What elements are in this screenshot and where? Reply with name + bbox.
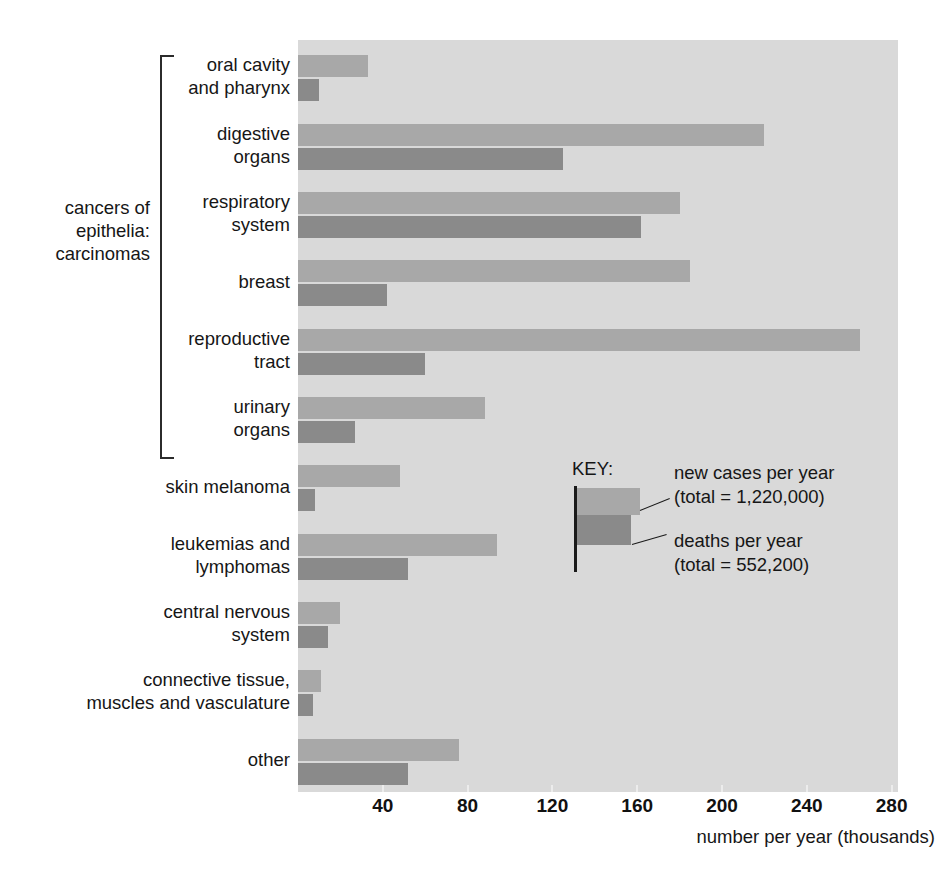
category-label: other	[30, 748, 290, 771]
bar-new-cases	[298, 124, 764, 146]
x-tick-label: 120	[537, 795, 569, 817]
bar-deaths	[298, 216, 641, 238]
bar-deaths	[298, 284, 387, 306]
x-tick-label: 240	[791, 795, 823, 817]
bar-deaths	[298, 421, 355, 443]
bar-deaths	[298, 763, 408, 785]
bar-deaths	[298, 148, 563, 170]
x-axis-tick-labels: 4080120160200240280	[0, 795, 947, 821]
x-axis-tick	[721, 785, 723, 792]
bar-deaths	[298, 558, 408, 580]
x-axis-tick	[806, 785, 808, 792]
key-leader-line-new-cases	[640, 498, 670, 511]
bar-new-cases	[298, 534, 497, 556]
bar-new-cases	[298, 397, 485, 419]
category-label: central nervous system	[30, 600, 290, 646]
key-label-new-cases: new cases per year (total = 1,220,000)	[674, 461, 834, 509]
x-axis-tick	[551, 785, 553, 792]
x-tick-label: 200	[706, 795, 738, 817]
bar-deaths	[298, 79, 319, 101]
carcinoma-group-bracket	[160, 55, 174, 459]
bar-new-cases	[298, 670, 321, 692]
x-tick-label: 40	[372, 795, 393, 817]
key-swatch-new-cases	[577, 488, 640, 515]
x-tick-label: 280	[876, 795, 908, 817]
bar-deaths	[298, 626, 328, 648]
category-label: skin melanoma	[30, 475, 290, 498]
bar-deaths	[298, 694, 313, 716]
x-axis-tick	[467, 785, 469, 792]
x-axis-tick	[382, 785, 384, 792]
key-swatch-deaths	[577, 515, 631, 545]
x-axis-tick	[891, 785, 893, 792]
bar-new-cases	[298, 739, 459, 761]
key-label-deaths: deaths per year (total = 552,200)	[674, 529, 809, 577]
bar-new-cases	[298, 260, 690, 282]
category-label-list: oral cavity and pharynxdigestive organsr…	[12, 40, 290, 792]
carcinoma-group-label: cancers of epithelia: carcinomas	[0, 196, 150, 265]
x-axis-title: number per year (thousands)	[696, 826, 935, 848]
category-label: leukemias and lymphomas	[30, 532, 290, 578]
key-title-label: KEY:	[572, 458, 613, 480]
chart-key: KEY: new cases per year (total = 1,220,0…	[572, 458, 932, 588]
bar-new-cases	[298, 329, 860, 351]
key-leader-line-deaths	[632, 534, 667, 545]
bar-new-cases	[298, 602, 340, 624]
category-label: connective tissue, muscles and vasculatu…	[30, 668, 290, 714]
bar-chart-figure: oral cavity and pharynxdigestive organsr…	[0, 0, 947, 872]
bar-new-cases	[298, 465, 400, 487]
bar-new-cases	[298, 192, 680, 214]
bar-deaths	[298, 353, 425, 375]
x-tick-label: 160	[621, 795, 653, 817]
bar-deaths	[298, 489, 315, 511]
bar-new-cases	[298, 55, 368, 77]
x-tick-label: 80	[457, 795, 478, 817]
x-axis-tick	[636, 785, 638, 792]
plot-area	[298, 40, 898, 792]
